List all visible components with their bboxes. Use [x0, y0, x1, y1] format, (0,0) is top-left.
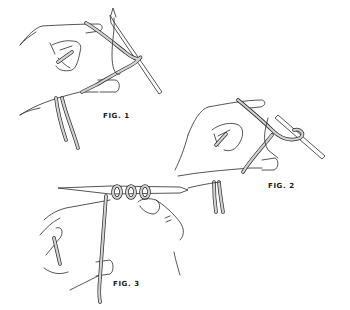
- fig1-label: FIG. 1: [103, 112, 130, 120]
- fig3-needle: [58, 186, 188, 194]
- fig1-needle: [110, 15, 162, 94]
- fig2-illustration: [175, 100, 325, 212]
- fig2-label: FIG. 2: [268, 182, 295, 190]
- fig1-illustration: [20, 8, 162, 148]
- fig3-label: FIG. 3: [113, 280, 140, 288]
- knitting-illustration: [0, 0, 350, 310]
